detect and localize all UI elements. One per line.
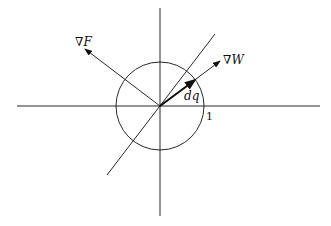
- radius-label: 1: [206, 110, 213, 123]
- vector-diagram: ∇F ∇W dq 1: [0, 0, 331, 226]
- grad-f-arrow: [85, 49, 160, 106]
- grad-w-label: ∇W: [223, 53, 245, 67]
- grad-f-label: ∇F: [75, 35, 92, 49]
- diagram: ∇F ∇W dq 1: [0, 0, 331, 226]
- dq-label: dq: [184, 89, 200, 103]
